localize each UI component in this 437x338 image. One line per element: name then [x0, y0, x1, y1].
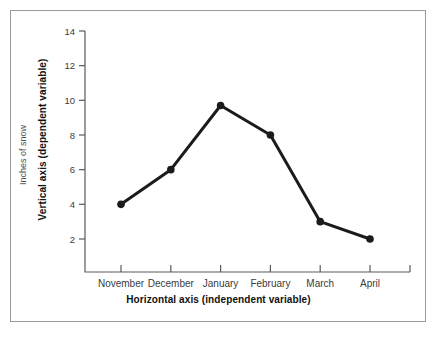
x-axis-ticks [121, 265, 410, 272]
x-tick-label: February [250, 278, 290, 289]
x-tick-label: March [306, 278, 334, 289]
data-point-marker [117, 201, 125, 209]
data-point-marker [267, 131, 275, 139]
line-chart-plot: 2468101214 NovemberDecemberJanuaryFebrua… [0, 0, 437, 338]
data-point-marker [366, 235, 374, 243]
data-point-marker [217, 102, 225, 110]
series-line-inches-of-snow [121, 106, 370, 239]
y-tick-label: 10 [64, 95, 75, 106]
figure-container: Vertical axis (dependent variable) Horiz… [0, 0, 437, 338]
chart-svg: 2468101214 NovemberDecemberJanuaryFebrua… [0, 0, 437, 338]
y-tick-label: 12 [64, 60, 75, 71]
y-tick-label: 6 [70, 164, 75, 175]
x-tick-label: November [98, 278, 145, 289]
data-point-marker [167, 166, 175, 174]
y-tick-label: 4 [70, 199, 75, 210]
y-tick-label: 2 [70, 234, 75, 245]
x-tick-label: December [148, 278, 195, 289]
y-axis-ticks: 2468101214 [64, 26, 85, 245]
series-markers [117, 102, 374, 243]
y-tick-label: 14 [64, 26, 75, 37]
y-tick-label: 8 [70, 130, 75, 141]
x-tick-label: April [360, 278, 380, 289]
data-point-marker [316, 218, 324, 226]
x-tick-label: January [203, 278, 239, 289]
x-axis-labels: NovemberDecemberJanuaryFebruaryMarchApri… [98, 278, 380, 289]
